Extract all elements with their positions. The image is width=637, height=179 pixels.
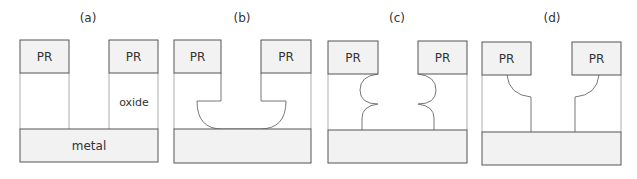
diagram-canvas: (a) PR PR oxide metal (b) PR PR (c) xyxy=(0,0,637,179)
panel-d: (d) PR PR xyxy=(482,11,621,165)
panel-label: (a) xyxy=(80,11,97,25)
panel-b: (b) PR PR xyxy=(174,11,311,163)
metal-layer xyxy=(482,132,621,165)
panel-a: (a) PR PR oxide metal xyxy=(20,11,158,162)
etch-profile xyxy=(197,73,286,129)
pr-label: PR xyxy=(499,52,515,66)
pr-label: PR xyxy=(278,50,294,64)
panel-label: (d) xyxy=(544,11,561,25)
metal-layer xyxy=(328,130,467,163)
pr-label: PR xyxy=(126,50,142,64)
etch-profile-left xyxy=(360,74,378,130)
pr-label: PR xyxy=(345,51,361,65)
metal-layer xyxy=(174,129,311,163)
pr-label: PR xyxy=(589,52,605,66)
oxide-label: oxide xyxy=(119,96,149,109)
panel-label: (c) xyxy=(389,11,405,25)
pr-label: PR xyxy=(435,51,451,65)
pr-label: PR xyxy=(37,50,53,64)
panel-label: (b) xyxy=(234,11,251,25)
panel-c: (c) PR PR xyxy=(328,11,467,163)
etch-profile-left xyxy=(507,75,531,132)
metal-label: metal xyxy=(72,139,106,153)
pr-label: PR xyxy=(190,50,206,64)
etch-profile-right xyxy=(418,74,436,130)
etch-profile-right xyxy=(575,75,599,132)
